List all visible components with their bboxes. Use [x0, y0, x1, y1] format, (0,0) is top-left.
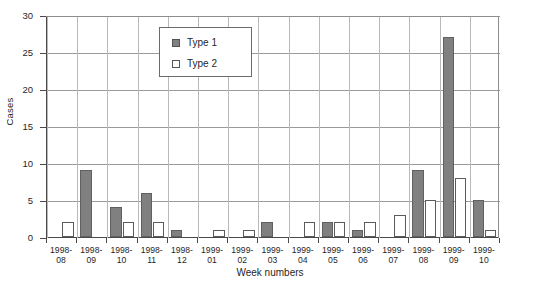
y-axis-tick-label: 25: [0, 48, 33, 58]
category-separator: [138, 16, 139, 238]
category-separator: [289, 16, 290, 238]
y-axis-tick-label: 0: [0, 233, 33, 243]
category-separator: [349, 16, 350, 238]
x-axis-tick-mark: [106, 238, 107, 243]
category-separator: [319, 16, 320, 238]
gridline: [47, 164, 500, 165]
x-axis-tick-mark: [137, 238, 138, 243]
x-axis-tick-mark: [318, 238, 319, 243]
legend-item-type-2: Type 2: [172, 58, 217, 70]
y-axis-tick-label: 30: [0, 11, 33, 21]
x-axis-tick-label: 1999-10: [464, 245, 504, 266]
bar-type-2: [364, 222, 375, 237]
bar-type-2: [425, 200, 436, 237]
category-separator: [470, 16, 471, 238]
category-separator: [409, 16, 410, 238]
x-axis-tick-mark: [197, 238, 198, 243]
bar-type-2: [153, 222, 164, 237]
x-axis-tick-mark: [439, 238, 440, 243]
x-axis-title: Week numbers: [180, 267, 360, 278]
category-separator: [77, 16, 78, 238]
x-axis-tick-mark: [167, 238, 168, 243]
bar-type-2: [123, 222, 134, 237]
bar-chart: Cases 051015202530 1998-081998-091998-10…: [0, 0, 536, 291]
legend: Type 1 Type 2: [159, 27, 252, 77]
bar-type-1: [110, 207, 121, 237]
x-axis-tick-mark: [227, 238, 228, 243]
bar-type-2: [394, 215, 405, 237]
x-axis-tick-mark: [469, 238, 470, 243]
bar-type-1: [352, 230, 363, 237]
bar-type-1: [141, 193, 152, 237]
x-axis-tick-mark: [348, 238, 349, 243]
bar-type-1: [171, 230, 182, 237]
bar-type-1: [322, 222, 333, 237]
x-axis-tick-mark: [378, 238, 379, 243]
gridline: [47, 53, 500, 54]
legend-swatch-type-1-icon: [172, 39, 180, 47]
y-axis-tick-label: 15: [0, 122, 33, 132]
y-axis-tick-label: 5: [0, 196, 33, 206]
y-axis-tick-label: 10: [0, 159, 33, 169]
bar-type-2: [485, 230, 496, 237]
bar-type-1: [473, 200, 484, 237]
x-axis-tick-mark: [288, 238, 289, 243]
legend-item-type-1: Type 1: [172, 37, 217, 49]
y-axis-tick-label: 20: [0, 85, 33, 95]
plot-area: [46, 16, 499, 238]
bar-type-2: [334, 222, 345, 237]
x-axis-tick-mark: [257, 238, 258, 243]
category-separator: [47, 16, 48, 238]
x-axis-tick-mark: [408, 238, 409, 243]
gridline: [47, 90, 500, 91]
legend-label-type-2: Type 2: [187, 59, 217, 69]
gridline: [47, 16, 500, 17]
legend-swatch-type-2-icon: [172, 60, 180, 68]
x-axis-tick-mark: [76, 238, 77, 243]
bar-type-1: [80, 170, 91, 237]
x-axis-tick-mark: [499, 238, 500, 243]
bar-type-2: [243, 230, 254, 237]
category-separator: [258, 16, 259, 238]
gridline: [47, 127, 500, 128]
category-separator: [440, 16, 441, 238]
bar-type-1: [443, 37, 454, 237]
category-separator: [107, 16, 108, 238]
bar-type-2: [62, 222, 73, 237]
bar-type-2: [213, 230, 224, 237]
bar-type-2: [304, 222, 315, 237]
bar-type-1: [261, 222, 272, 237]
category-separator: [379, 16, 380, 238]
legend-label-type-1: Type 1: [187, 38, 217, 48]
bar-type-1: [412, 170, 423, 237]
bar-type-2: [455, 178, 466, 237]
x-axis-tick-mark: [46, 238, 47, 243]
